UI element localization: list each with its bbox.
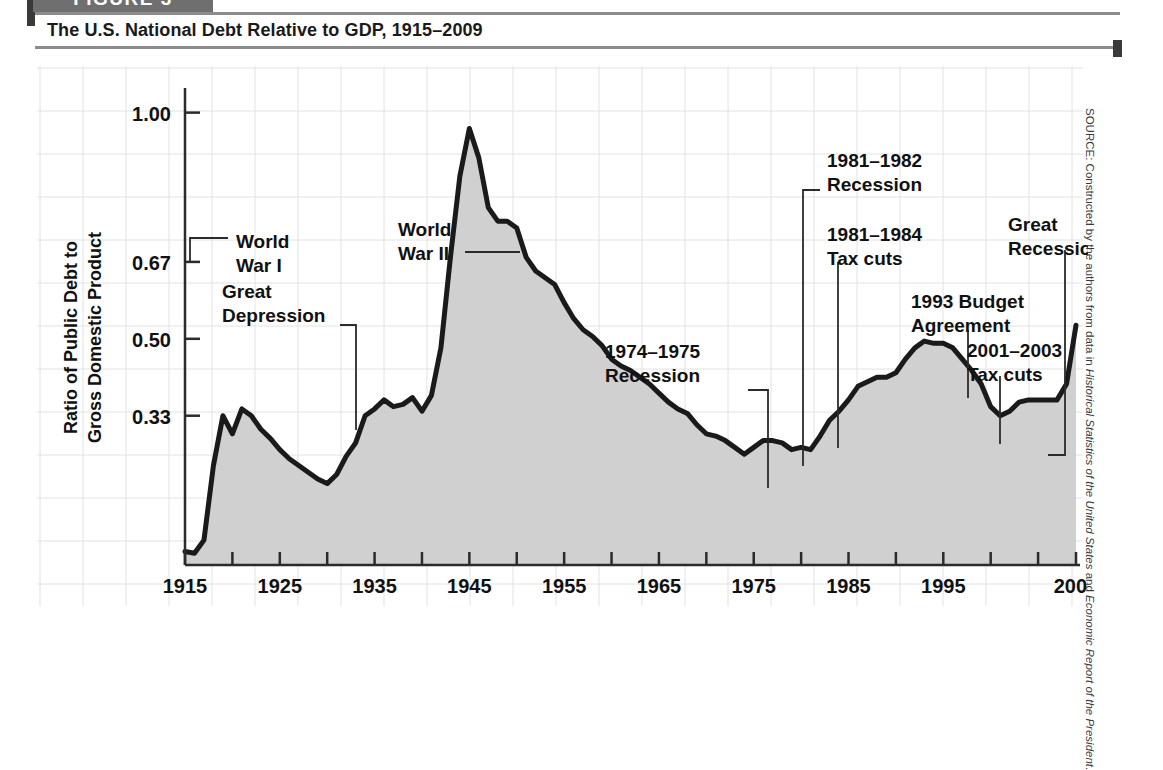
x-tick-label: 1995 bbox=[921, 575, 966, 597]
annotation-label-line: 2001–2003 bbox=[967, 340, 1062, 361]
source-middle: and bbox=[1084, 570, 1096, 596]
x-tick-label: 2009 bbox=[1054, 575, 1088, 597]
annotation-label-line: Great bbox=[222, 281, 272, 302]
annotation-label-line: Great bbox=[1008, 214, 1058, 235]
annotation-label-line: Recession bbox=[827, 174, 922, 195]
annotation-label-line: Tax cuts bbox=[827, 248, 903, 269]
figure-number-tab: FIGURE 3 bbox=[33, 0, 213, 12]
annotation-label-line: Depression bbox=[222, 305, 325, 326]
x-tick-label: 1965 bbox=[637, 575, 682, 597]
source-italic-two: Economic Report of the President bbox=[1084, 595, 1096, 767]
title-rule-bottom bbox=[35, 46, 1120, 49]
x-tick-label: 1925 bbox=[258, 575, 303, 597]
x-tick-label: 1985 bbox=[826, 575, 871, 597]
x-tick-label: 1945 bbox=[447, 575, 492, 597]
x-tick-label: 1915 bbox=[163, 575, 208, 597]
annotation-label-line: Agreement bbox=[911, 315, 1011, 336]
chart-area: 1.000.670.500.33 19151925193519451955196… bbox=[33, 62, 1088, 610]
title-rule-top bbox=[35, 12, 1120, 15]
debt-to-gdp-area-chart: 1.000.670.500.33 19151925193519451955196… bbox=[33, 62, 1088, 610]
annotation-label-line: World bbox=[398, 219, 451, 240]
annotation-leader-line bbox=[803, 190, 820, 466]
x-axis-title: Year bbox=[610, 606, 651, 610]
source-prefix: SOURCE: Constructed by the authors from … bbox=[1084, 108, 1096, 369]
annotation-label-line: 1981–1982 bbox=[827, 150, 922, 171]
annotation-label-line: War II bbox=[398, 243, 449, 264]
annotation-leader-line bbox=[340, 325, 356, 430]
source-note: SOURCE: Constructed by the authors from … bbox=[1081, 108, 1098, 568]
x-tick-label: 1935 bbox=[352, 575, 397, 597]
annotation-label-line: 1974–1975 bbox=[605, 341, 701, 362]
y-tick-label: 1.00 bbox=[132, 103, 171, 125]
annotation-label-line: 1981–1984 bbox=[827, 224, 923, 245]
x-tick-label: 1955 bbox=[542, 575, 587, 597]
annotation-label-line: War I bbox=[236, 255, 282, 276]
figure-title: The U.S. National Debt Relative to GDP, … bbox=[47, 20, 483, 41]
y-axis-title-line: Gross Domestic Product bbox=[85, 232, 105, 443]
y-tick-label: 0.33 bbox=[132, 406, 171, 428]
y-axis-ticks: 1.000.670.500.33 bbox=[132, 103, 200, 428]
annotation-world-war-i: WorldWar I bbox=[190, 231, 289, 276]
x-tick-label: 1975 bbox=[731, 575, 776, 597]
title-end-marker bbox=[1113, 40, 1122, 57]
source-italic-one: Historical Statistics of the United Stat… bbox=[1084, 369, 1096, 570]
annotation-label-line: Tax cuts bbox=[967, 364, 1043, 385]
annotation-leader-line bbox=[190, 238, 228, 262]
annotation-label-line: World bbox=[236, 231, 289, 252]
y-axis-title-line: Ratio of Public Debt to bbox=[61, 241, 81, 434]
annotation-label-line: 1993 Budget bbox=[911, 291, 1025, 312]
y-tick-label: 0.50 bbox=[132, 329, 171, 351]
annotation-label-line: Recession bbox=[605, 365, 700, 386]
annotation-label-line: Recession bbox=[1008, 238, 1088, 259]
y-tick-label: 0.67 bbox=[132, 252, 171, 274]
